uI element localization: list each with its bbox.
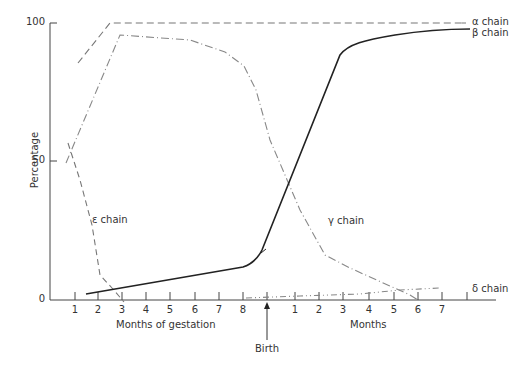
x-tick-pre-4: 4	[143, 305, 149, 315]
x-tick-post-3: 3	[340, 305, 346, 315]
gamma-chain-line	[66, 35, 418, 300]
delta-chain-label: δ chain	[472, 284, 508, 294]
x-tick-pre-3: 3	[119, 305, 125, 315]
epsilon-chain-label: ε chain	[92, 215, 128, 225]
x-tick-pre-7: 7	[216, 305, 222, 315]
x-tick-post-6: 6	[415, 305, 421, 315]
x-axis-title-months: Months	[350, 320, 387, 330]
x-tick-post-4: 4	[366, 305, 372, 315]
x-tick-pre-1: 1	[72, 305, 78, 315]
alpha-chain-line	[78, 23, 462, 63]
gamma-chain-label: γ chain	[328, 216, 364, 226]
birth-label: Birth	[255, 344, 279, 354]
beta-chain-label: β chain	[472, 28, 509, 38]
x-tick-pre-5: 5	[167, 305, 173, 315]
x-tick-pre-2: 2	[95, 305, 101, 315]
alpha-chain-label: α chain	[472, 17, 509, 27]
y-axis-title: Percentage	[29, 132, 40, 188]
x-ticks	[75, 292, 467, 300]
x-tick-pre-8: 8	[240, 305, 246, 315]
x-tick-post-2: 2	[316, 305, 322, 315]
x-tick-post-5: 5	[391, 305, 397, 315]
y-tick-100: 100	[15, 17, 45, 27]
x-tick-post-7: 7	[439, 305, 445, 315]
x-axis-title-gestation: Months of gestation	[116, 320, 215, 330]
y-tick-0: 0	[15, 294, 45, 304]
x-tick-pre-6: 6	[192, 305, 198, 315]
x-tick-post-1: 1	[292, 305, 298, 315]
beta-chain-line	[86, 29, 470, 294]
